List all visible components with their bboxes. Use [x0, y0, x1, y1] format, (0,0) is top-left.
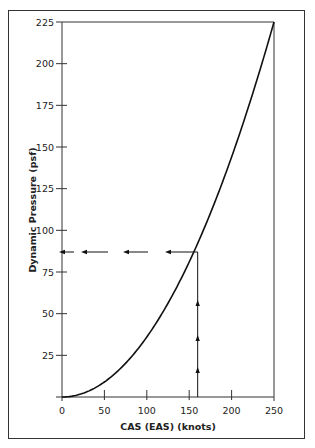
y-tick-label: 100: [36, 225, 54, 236]
x-tick-label: 250: [265, 405, 283, 416]
x-tick-label: 200: [223, 405, 241, 416]
x-tick-label: 100: [138, 405, 156, 416]
x-axis: 050100150200250: [59, 390, 283, 416]
arrow-up-icon: [195, 300, 199, 306]
y-tick-label: 175: [36, 100, 54, 111]
y-axis-title: Dynamic Pressure (psf): [27, 147, 38, 272]
x-tick-label: 0: [59, 405, 65, 416]
y-tick-label: 200: [36, 58, 54, 69]
arrow-up-icon: [195, 335, 199, 341]
plot-area: [56, 22, 274, 397]
dynamic-pressure-chart: 255075100125150175200225 050100150200250…: [0, 0, 315, 448]
y-tick-label: 150: [36, 142, 54, 153]
arrow-up-icon: [195, 367, 199, 373]
dynamic-pressure-curve: [62, 22, 274, 397]
arrow-left-icon: [165, 250, 171, 254]
reading-arrows: [59, 250, 200, 397]
y-tick-label: 225: [36, 17, 54, 28]
y-tick-label: 75: [42, 267, 54, 278]
arrow-left-icon: [123, 250, 129, 254]
x-tick-label: 150: [180, 405, 198, 416]
x-tick-label: 50: [98, 405, 110, 416]
y-tick-label: 125: [36, 183, 54, 194]
y-tick-label: 25: [42, 350, 54, 361]
arrow-left-icon: [81, 250, 87, 254]
y-tick-label: 50: [42, 308, 54, 319]
x-axis-title: CAS (EAS) (knots): [120, 421, 216, 432]
